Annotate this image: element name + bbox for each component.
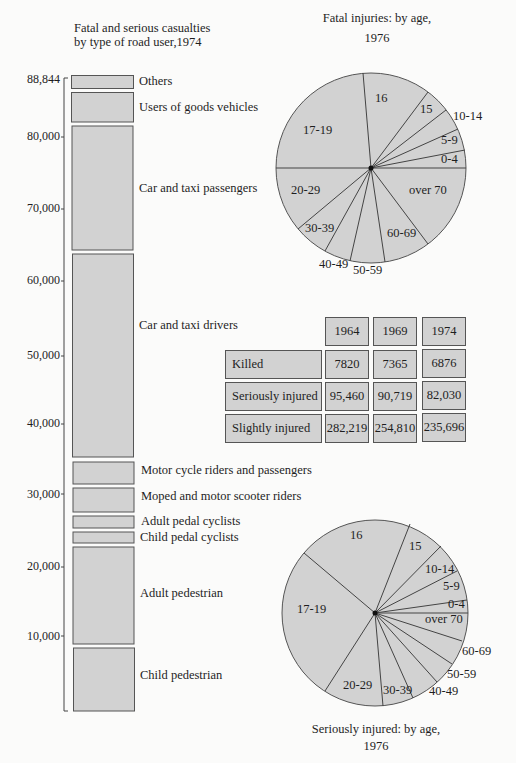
pie-fatal-label-15: 15 [420, 102, 433, 117]
pie-serious-label-0-4: 0-4 [448, 597, 465, 612]
table-cell: 282,219 [325, 414, 369, 443]
label-others: Others [139, 74, 172, 89]
bar-others [72, 76, 134, 89]
pie-serious-title-line2: 1976 [306, 739, 446, 753]
pie-fatal-label-5-9: 5-9 [441, 133, 458, 148]
table-cell: 7820 [325, 350, 369, 379]
label-adult-pedestrian: Adult pedestrian [140, 586, 223, 601]
stacked-bars [72, 76, 135, 712]
label-child-pedal: Child pedal cyclists [140, 530, 239, 545]
pie-serious-label-20-29: 20-29 [343, 678, 372, 693]
pie-fatal-label-10-14: 10-14 [453, 109, 482, 124]
table-cell: 90,719 [373, 382, 417, 411]
table-header-1964: 1964 [325, 317, 369, 346]
table-cell: 6876 [422, 349, 466, 378]
pie-serious-label-60-69: 60-69 [462, 644, 491, 659]
pie-fatal-label-0-4: 0-4 [441, 152, 458, 167]
pie-fatal-label-20-29: 20-29 [291, 183, 320, 198]
pie-fatal-title: Fatal injuries: by age, 1976 [322, 11, 432, 45]
bar-child-pedal [73, 532, 134, 543]
label-car-taxi-drivers: Car and taxi drivers [139, 318, 238, 333]
pie-fatal-title-line1: Fatal injuries: by age, [322, 11, 432, 25]
pie-serious-label-17-19: 17-19 [297, 602, 326, 617]
pie-fatal-label-40-49: 40-49 [319, 257, 348, 272]
pie-serious-label-10-14: 10-14 [425, 562, 454, 577]
bar-motor-cycle [73, 462, 134, 484]
table-row-label-killed: Killed [225, 350, 322, 379]
pie-fatal-title-line2: 1976 [322, 31, 432, 45]
label-goods-vehicles: Users of goods vehicles [139, 100, 258, 115]
table-header-1974: 1974 [422, 317, 466, 346]
label-child-pedestrian: Child pedestrian [140, 668, 222, 683]
pie-serious-label-15: 15 [409, 539, 422, 554]
pie-fatal-label-50-59: 50-59 [353, 263, 382, 278]
table-cell: 95,460 [325, 382, 369, 411]
label-motor-cycle: Motor cycle riders and passengers [141, 463, 312, 478]
y-axis [61, 78, 68, 711]
bar-car-taxi-passengers [72, 126, 133, 250]
pie-serious-label-40-49: 40-49 [429, 684, 458, 699]
table-row-label-slightly-injured: Slightly injured [225, 414, 322, 443]
pie-serious-label-16: 16 [350, 528, 363, 543]
pie-fatal-label-17-19: 17-19 [303, 123, 332, 138]
table-row-label-seriously-injured: Seriously injured [225, 382, 322, 411]
pie-serious-label-over-70: over 70 [425, 612, 463, 627]
table-cell: 254,810 [373, 414, 417, 443]
table-header-1969: 1969 [373, 317, 417, 346]
bar-moped [73, 488, 134, 512]
bar-adult-pedestrian [73, 547, 134, 644]
label-moped: Moped and motor scooter riders [141, 489, 301, 504]
pie-fatal-label-60-69: 60-69 [387, 226, 416, 241]
bar-goods-vehicles [72, 93, 134, 123]
bar-child-pedestrian [74, 648, 135, 711]
bar-car-taxi-drivers [73, 254, 134, 457]
label-adult-pedal: Adult pedal cyclists [141, 514, 240, 529]
label-car-taxi-passengers: Car and taxi passengers [139, 181, 257, 196]
pie-serious-label-50-59: 50-59 [447, 667, 476, 682]
table-cell: 235,696 [422, 413, 466, 442]
pie-fatal-label-30-39: 30-39 [305, 221, 334, 236]
pie-fatal-label-16: 16 [375, 91, 388, 106]
bar-adult-pedal [73, 516, 134, 528]
pie-serious-label-5-9: 5-9 [443, 579, 460, 594]
table-cell: 7365 [373, 350, 417, 379]
pie-fatal-label-over-70: over 70 [409, 183, 447, 198]
pie-serious-title: Seriously injured: by age, 1976 [306, 722, 446, 753]
pie-serious-title-line1: Seriously injured: by age, [306, 722, 446, 736]
table-cell: 82,030 [422, 381, 466, 410]
pie-serious-label-30-39: 30-39 [383, 683, 412, 698]
